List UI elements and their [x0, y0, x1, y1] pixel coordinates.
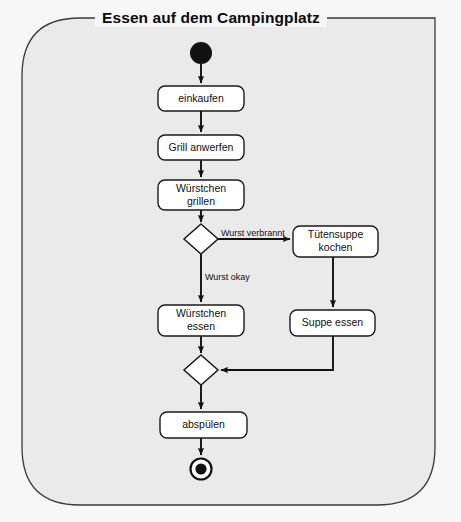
node-initial[interactable]	[190, 42, 212, 64]
node-action-einkaufen[interactable]	[158, 86, 244, 111]
node-action-wuerstchen-grillen[interactable]	[158, 180, 244, 210]
node-action-grill-anwerfen[interactable]	[158, 135, 244, 160]
node-action-abspuelen[interactable]	[160, 412, 247, 438]
node-final[interactable]	[191, 459, 212, 480]
node-action-wuerstchen-essen[interactable]	[158, 305, 244, 336]
activity-diagram-svg	[0, 0, 461, 522]
node-action-suppe-essen[interactable]	[290, 310, 375, 336]
diagram-canvas: Essen auf dem Campingplatz einkaufen Gri…	[0, 0, 461, 522]
page-title: Essen auf dem Campingplatz	[95, 9, 327, 27]
node-action-tuetensuppe-kochen[interactable]	[293, 226, 378, 257]
